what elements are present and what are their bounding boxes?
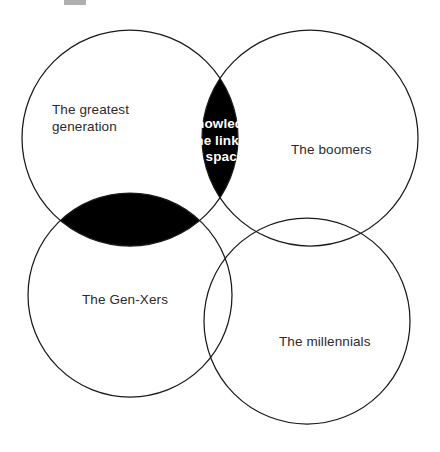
top-crop-artifact [64,0,86,5]
venn-diagram-canvas: The greatest generation The boomers The … [0,0,440,452]
label-millennials: The millennials [279,333,429,350]
label-greatest-generation: The greatest generation [52,101,182,135]
label-knowledge-linking-space: Knowledge: the linking space [176,116,274,166]
label-gen-xers: The Gen-Xers [82,291,222,308]
circle-millennials[interactable] [204,218,410,424]
label-boomers: The boomers [291,141,421,158]
venn-diagram-svg [0,0,440,452]
